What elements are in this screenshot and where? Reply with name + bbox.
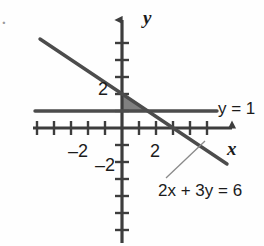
line-label-y-equals-1: y = 1 xyxy=(218,100,255,117)
coordinate-plane-svg xyxy=(0,0,264,246)
y-tick-label-negative-2: –2 xyxy=(95,156,115,174)
problem-marker: . xyxy=(2,12,6,27)
y-axis-label: y xyxy=(143,8,151,27)
x-axis xyxy=(33,121,232,135)
equation-leader-line xyxy=(166,141,205,178)
graph-figure: . y x 2 –2 –2 2 y = 1 2x + 3y = 6 xyxy=(0,0,264,246)
y-axis xyxy=(115,20,129,243)
x-tick-label-2: 2 xyxy=(150,142,160,160)
x-tick-label-negative-2: –2 xyxy=(68,142,88,160)
y-tick-label-2: 2 xyxy=(98,80,108,98)
line-label-2x-plus-3y-equals-6: 2x + 3y = 6 xyxy=(158,182,242,199)
x-axis-label: x xyxy=(227,139,237,158)
